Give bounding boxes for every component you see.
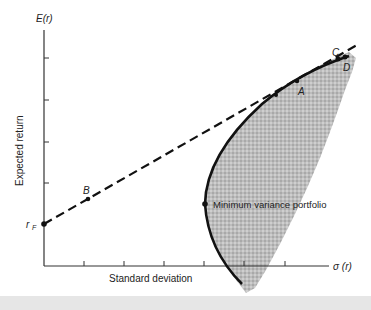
- point-d: [343, 55, 348, 60]
- x-axis-label: σ (r): [333, 261, 352, 272]
- label-d: D: [343, 62, 350, 73]
- point-a: [295, 79, 300, 84]
- point-rf: [41, 221, 47, 227]
- y-ticks: [44, 58, 49, 183]
- point-tangent: [274, 93, 278, 97]
- label-a: A: [297, 86, 305, 97]
- y-axis-label: E(r): [36, 13, 53, 24]
- point-min-variance: [202, 201, 208, 207]
- label-rf: r: [26, 219, 30, 230]
- label-c: C: [332, 47, 340, 58]
- label-min-variance: Minimum variance portfolio: [213, 199, 327, 210]
- label-rf-sub: F: [32, 224, 37, 231]
- y-axis-side-label: Expected return: [14, 115, 25, 186]
- point-b: [86, 197, 91, 202]
- efficient-frontier-diagram: E(r) Expected return σ (r) Standard devi…: [0, 0, 371, 310]
- x-axis-side-label: Standard deviation: [109, 273, 192, 284]
- label-b: B: [83, 185, 90, 196]
